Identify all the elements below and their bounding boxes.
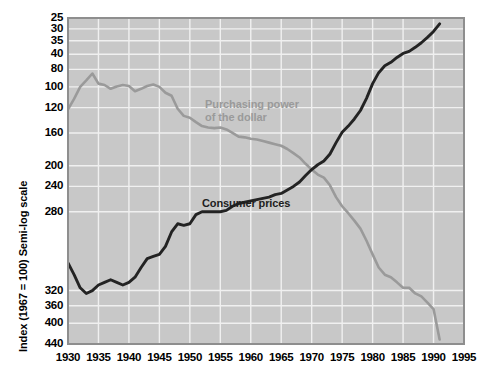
x-tick-label: 1930 bbox=[51, 351, 85, 363]
y-tick-label: 80 bbox=[25, 63, 63, 74]
x-tick-label: 1970 bbox=[295, 351, 329, 363]
x-tick-label: 1995 bbox=[447, 351, 481, 363]
y-tick-label: 120 bbox=[25, 102, 63, 113]
y-tick-label: 440 bbox=[25, 338, 63, 349]
x-tick-label: 1935 bbox=[81, 351, 115, 363]
x-tick-label: 1955 bbox=[203, 351, 237, 363]
y-tick-label: 160 bbox=[25, 127, 63, 138]
plot-area bbox=[0, 0, 485, 379]
x-tick-label: 1985 bbox=[386, 351, 420, 363]
x-tick-label: 1940 bbox=[112, 351, 146, 363]
x-tick-label: 1960 bbox=[234, 351, 268, 363]
x-tick-label: 1965 bbox=[264, 351, 298, 363]
annotation-2: Consumer prices bbox=[202, 197, 290, 210]
y-tick-label: 240 bbox=[25, 180, 63, 191]
y-tick-label: 30 bbox=[25, 23, 63, 34]
x-tick-label: 1990 bbox=[417, 351, 451, 363]
y-tick-label: 40 bbox=[25, 48, 63, 59]
y-tick-label: 280 bbox=[25, 206, 63, 217]
y-tick-label: 400 bbox=[25, 317, 63, 328]
y-tick-label: 100 bbox=[25, 81, 63, 92]
x-tick-label: 1945 bbox=[142, 351, 176, 363]
x-tick-label: 1975 bbox=[325, 351, 359, 363]
y-tick-label: 360 bbox=[25, 300, 63, 311]
plot-background bbox=[68, 18, 464, 344]
y-tick-label: 200 bbox=[25, 160, 63, 171]
x-tick-label: 1950 bbox=[173, 351, 207, 363]
y-tick-label: 25 bbox=[25, 12, 63, 23]
y-tick-label: 35 bbox=[25, 35, 63, 46]
x-tick-label: 1980 bbox=[356, 351, 390, 363]
annotation-1: Purchasing power of the dollar bbox=[205, 98, 299, 124]
chart-container: Index (1967 = 100) Semi-log scale 440400… bbox=[0, 0, 485, 379]
y-tick-label: 320 bbox=[25, 285, 63, 296]
